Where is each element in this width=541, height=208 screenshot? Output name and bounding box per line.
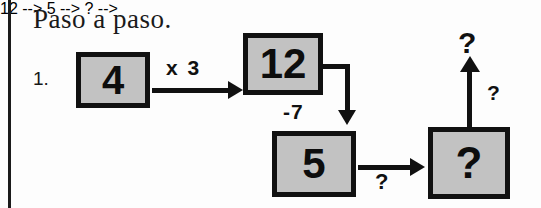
value-box-result: ? [428,127,510,199]
arrow-head-unknown-icon [410,158,425,176]
operation-label-unknown-2: ? [487,82,500,103]
value-box-start: 4 [76,52,150,108]
exercise-number: 1. [33,68,49,90]
arrow-shaft-subtract-vertical [345,64,350,114]
arrow-shaft-multiply [152,88,230,93]
arrow-head-subtract-icon [338,110,356,125]
value-box-after-subtract: 5 [272,131,356,197]
worksheet-page: Paso a paso. 1. 4 12 --> x 3 12 5 --> -7… [0,0,541,208]
output-label-unknown: ? [458,28,476,58]
arrow-head-multiply-icon [228,81,243,99]
operation-label-unknown-1: ? [375,171,388,193]
arrow-shaft-output-vertical [467,70,472,128]
operation-label-multiply: x 3 [166,57,201,78]
value-box-after-multiply: 12 [243,33,323,95]
page-margin-rule [8,0,11,208]
page-title: Paso a paso. [33,4,172,35]
operation-label-subtract: -7 [283,101,304,122]
